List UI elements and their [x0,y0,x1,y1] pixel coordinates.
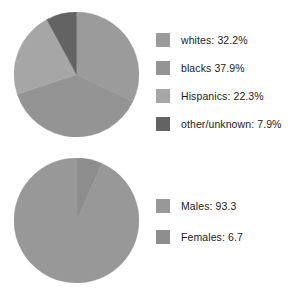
pie-sex-slices [14,158,139,283]
legend-item-males: Males: 93.3 [156,190,243,221]
legend-item-whites: whites: 32.2% [156,26,282,54]
legend-race: whites: 32.2% blacks 37.9% Hispanics: 22… [156,26,282,138]
legend-label-whites: whites: 32.2% [181,34,248,46]
pie-race-svg [14,12,139,137]
legend-swatch-males [156,199,170,213]
chart-sex: Males: 93.3 Females: 6.7 [0,146,290,293]
legend-label-other-unknown: other/unknown: 7.9% [181,118,282,130]
legend-swatch-other-unknown [156,117,170,131]
legend-swatch-blacks [156,61,170,75]
legend-swatch-whites [156,33,170,47]
legend-item-hispanics: Hispanics: 22.3% [156,82,282,110]
legend-item-females: Females: 6.7 [156,221,243,252]
legend-item-blacks: blacks 37.9% [156,54,282,82]
pie-charts-figure: whites: 32.2% blacks 37.9% Hispanics: 22… [0,0,290,293]
pie-sex-svg [14,158,139,283]
pie-chart-race [14,12,139,137]
legend-label-hispanics: Hispanics: 22.3% [181,90,264,102]
legend-label-males: Males: 93.3 [181,200,236,212]
legend-label-females: Females: 6.7 [181,231,243,243]
legend-sex: Males: 93.3 Females: 6.7 [156,190,243,252]
pie-chart-sex [14,158,139,283]
pie-race-slices [14,12,139,137]
legend-item-other-unknown: other/unknown: 7.9% [156,110,282,138]
legend-swatch-females [156,230,170,244]
legend-swatch-hispanics [156,89,170,103]
chart-race-ethnicity: whites: 32.2% blacks 37.9% Hispanics: 22… [0,0,290,146]
legend-label-blacks: blacks 37.9% [181,62,245,74]
